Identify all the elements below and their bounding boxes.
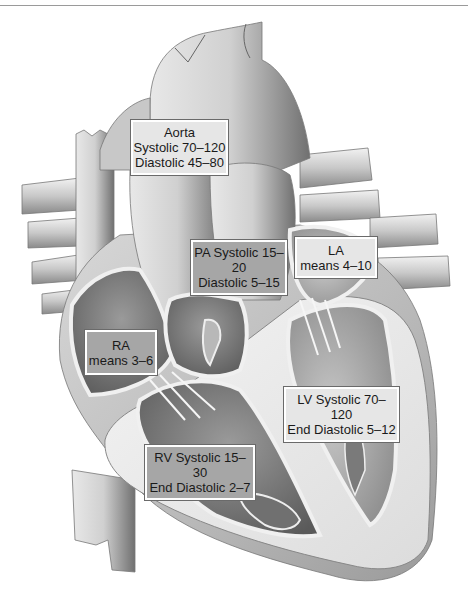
lv-label-systolic: LV Systolic 70–: [297, 392, 386, 407]
aorta-label-diastolic: Diastolic 45–80: [135, 155, 224, 170]
lv-label-end-diastolic: End Diastolic 5–12: [287, 422, 395, 437]
pa-label-systolic-cont: 20: [232, 260, 246, 275]
pa-pressure-label: PA Systolic 15– 20 Diastolic 5–15: [191, 240, 287, 295]
ra-label-mean: means 3–6: [89, 353, 153, 368]
heart-illustration: [0, 0, 468, 610]
ra-pressure-label: RA means 3–6: [85, 330, 157, 375]
la-label-title: LA: [328, 243, 344, 258]
rv-label-systolic-cont: 30: [193, 465, 207, 480]
pa-label-systolic: PA Systolic 15–: [194, 245, 283, 260]
lv-label-systolic-cont: 120: [331, 407, 353, 422]
aorta-pressure-label: Aorta Systolic 70–120 Diastolic 45–80: [131, 120, 228, 175]
ra-label-title: RA: [112, 338, 130, 353]
rv-label-systolic: RV Systolic 15–: [154, 450, 246, 465]
aorta-label-title: Aorta: [164, 125, 195, 140]
ivc: [72, 470, 135, 572]
pa-label-diastolic: Diastolic 5–15: [198, 275, 280, 290]
la-label-mean: means 4–10: [300, 258, 372, 273]
aorta-label-systolic: Systolic 70–120: [134, 140, 226, 155]
rv-pressure-label: RV Systolic 15– 30 End Diastolic 2–7: [145, 445, 255, 500]
la-pressure-label: LA means 4–10: [295, 237, 377, 278]
rv-label-end-diastolic: End Diastolic 2–7: [149, 480, 250, 495]
lv-pressure-label: LV Systolic 70– 120 End Diastolic 5–12: [284, 387, 399, 442]
